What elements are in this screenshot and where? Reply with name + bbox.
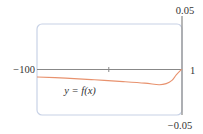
x-max-label: 1 <box>190 65 195 76</box>
function-label: y = f(x) <box>63 85 96 97</box>
y-min-label: −0.05 <box>168 120 192 131</box>
function-graph: −100 1 0.05 −0.05 y = f(x) <box>0 0 203 134</box>
function-curve <box>37 70 182 85</box>
y-max-label: 0.05 <box>176 5 194 16</box>
x-min-label: −100 <box>13 64 35 75</box>
